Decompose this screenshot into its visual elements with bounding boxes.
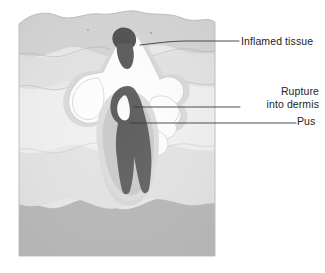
label-inflamed-tissue-text: Inflamed tissue [241,35,313,47]
medical-illustration-figure: Inflamed tissue Rupture into dermis Pus [0,0,325,273]
label-rupture-line1: Rupture [267,85,319,98]
skin-block [10,5,225,262]
label-rupture-line2: into dermis [267,98,319,111]
label-rupture-into-dermis: Rupture into dermis [267,85,319,111]
tissue-vignette [10,5,225,260]
label-pus: Pus [297,115,315,128]
label-pus-text: Pus [297,115,315,127]
label-inflamed-tissue: Inflamed tissue [241,35,313,48]
